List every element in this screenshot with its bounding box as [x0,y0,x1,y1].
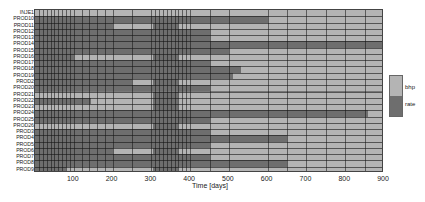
y-label: PROD19 [13,72,34,78]
chart: INJE1PROD10PROD11PROD12PROD13PROD14PROD1… [0,0,425,202]
y-label: PROD9 [16,166,34,172]
time-gridline [229,10,230,171]
x-tick-label: 600 [261,175,273,182]
time-gridline [47,10,48,171]
x-tick-label: 700 [300,175,312,182]
y-label: PROD6 [16,147,34,153]
time-gridline [39,10,40,171]
x-tick-label: 800 [338,175,350,182]
time-gridline [132,10,133,171]
time-gridline [97,10,98,171]
row-divider [35,41,382,42]
time-gridline [54,10,55,171]
y-label: PROD4 [16,134,34,140]
x-tick-label: 300 [144,175,156,182]
y-label: PROD7 [16,153,34,159]
time-gridline [186,10,187,171]
time-gridline [167,10,168,171]
time-gridline [365,10,366,171]
y-label: PROD22 [13,97,34,103]
y-label: PROD18 [13,65,34,71]
row-divider [35,167,382,168]
time-gridline [82,10,83,171]
row-divider [35,98,382,99]
row-divider [35,79,382,80]
row-divider [35,104,382,105]
time-gridline [89,10,90,171]
time-gridline [175,10,176,171]
legend-swatch-rate [390,96,402,116]
time-gridline [287,10,288,171]
legend-label-bhp: bhp [405,84,415,90]
time-gridline [151,10,152,171]
row-divider [35,29,382,30]
row-divider [35,129,382,130]
legend-colorbar [389,75,403,117]
time-gridline [326,10,327,171]
time-gridline [190,10,191,171]
row-divider [35,160,382,161]
row-divider [35,148,382,149]
time-gridline [105,10,106,171]
row-divider [35,73,382,74]
row-divider [35,48,382,49]
y-label: PROD13 [13,34,34,40]
row-divider [35,123,382,124]
time-gridline [306,10,307,171]
plot-area [34,9,383,172]
x-tick-label: 200 [106,175,118,182]
time-gridline [113,10,114,171]
y-label: PROD14 [13,40,34,46]
y-label: PROD25 [13,116,34,122]
legend-swatch-bhp [390,76,402,96]
row-divider [35,110,382,111]
time-gridline [182,10,183,171]
legend-label-rate: rate [405,101,415,107]
row-divider [35,135,382,136]
row-divider [35,35,382,36]
row-divider [35,23,382,24]
y-label: PROD21 [13,91,34,97]
y-label: PROD16 [13,53,34,59]
y-label: PROD17 [13,59,34,65]
row-divider [35,66,382,67]
y-label: PROD15 [13,47,34,53]
y-label: PROD10 [13,15,34,21]
time-gridline [159,10,160,171]
row-divider [35,60,382,61]
x-tick-label: 400 [183,175,195,182]
x-axis-label: Time [days] [192,182,228,189]
time-gridline [210,10,211,171]
x-tick-label: 900 [377,175,389,182]
row-divider [35,154,382,155]
y-label: PROD5 [16,141,34,147]
time-gridline [58,10,59,171]
y-label: PROD23 [13,103,34,109]
time-gridline [155,10,156,171]
time-gridline [51,10,52,171]
y-label: PROD26 [13,122,34,128]
row-divider [35,85,382,86]
row-divider [35,117,382,118]
y-label: PROD20 [13,84,34,90]
time-gridline [163,10,164,171]
time-gridline [345,10,346,171]
y-label: PROD24 [13,109,34,115]
time-gridline [43,10,44,171]
y-label: INJE1 [20,9,34,15]
y-label: PROD8 [16,159,34,165]
time-gridline [268,10,269,171]
y-label: PROD12 [13,28,34,34]
time-gridline [74,10,75,171]
time-gridline [66,10,67,171]
y-label: PROD11 [14,22,34,28]
time-gridline [178,10,179,171]
row-divider [35,54,382,55]
x-tick-label: 500 [222,175,234,182]
time-gridline [62,10,63,171]
time-gridline [171,10,172,171]
y-label: PROD2 [16,78,34,84]
y-label: PROD3 [16,128,34,134]
row-divider [35,16,382,17]
time-gridline [70,10,71,171]
